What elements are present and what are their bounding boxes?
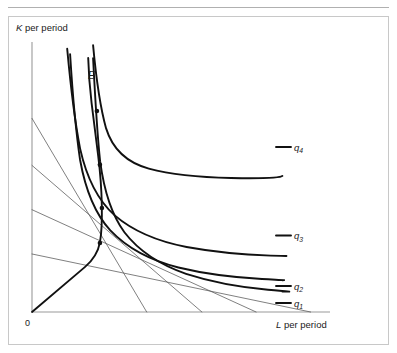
tangency-point-q3 <box>98 163 103 168</box>
isocost-lines-group <box>32 118 311 312</box>
figure-container: K per period L per period 0 E q4 q3 q2 q… <box>0 0 397 353</box>
tangency-point-q1 <box>98 241 103 246</box>
isoquant-label-q4: q4 <box>294 142 303 155</box>
tangency-point-q2 <box>100 206 105 211</box>
tangency-point-q4 <box>95 109 100 114</box>
y-axis-label: K per period <box>16 22 68 33</box>
isoquant-label-q2: q2 <box>294 281 303 294</box>
isoquant-expansion-path-chart: K per period L per period 0 E q4 q3 q2 q… <box>0 0 397 353</box>
x-axis-label-rest: per period <box>281 319 326 330</box>
expansion-path-label: E <box>88 70 95 81</box>
isoquant-curve-q4 <box>93 45 282 178</box>
isocost-line-4 <box>32 254 311 312</box>
origin-label: 0 <box>25 318 30 328</box>
isoquant-label-q1: q1 <box>294 298 303 311</box>
isoquant-label-q1-subscript: 1 <box>299 303 303 310</box>
isoquant-label-q3-subscript: 3 <box>299 236 303 243</box>
isoquant-label-q2-subscript: 2 <box>298 286 303 293</box>
isoquant-label-q3: q3 <box>294 230 303 243</box>
x-axis-label: L per period <box>276 319 327 330</box>
y-axis-label-rest: per period <box>22 22 67 33</box>
figure-frame-border <box>9 17 389 345</box>
isoquant-curve-q2 <box>70 54 284 280</box>
isoquant-label-q4-subscript: 4 <box>299 147 303 154</box>
